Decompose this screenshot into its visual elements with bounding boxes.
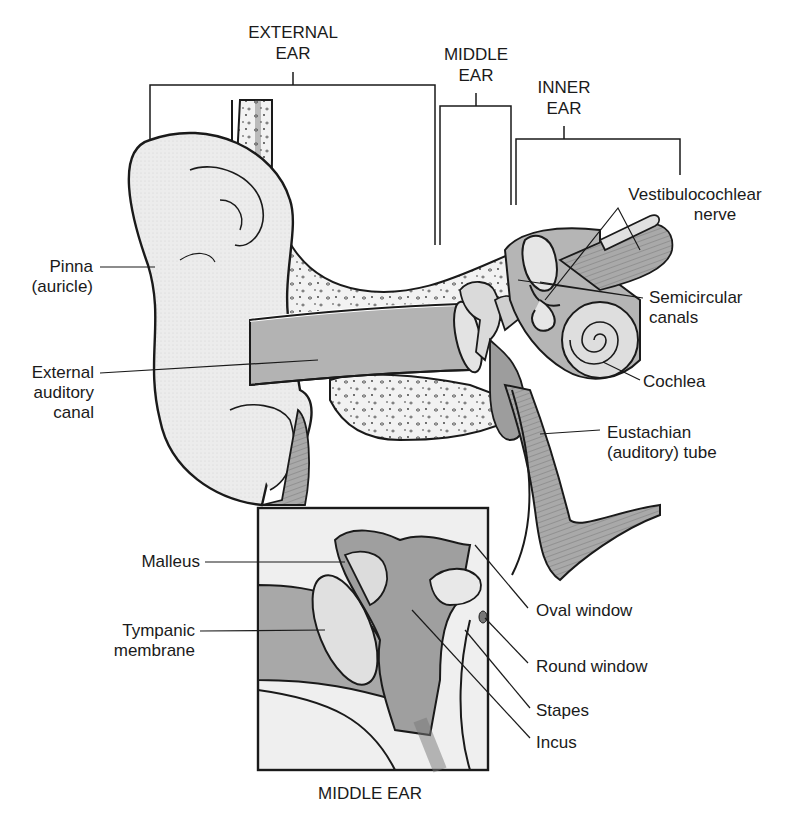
tympanic-label-line1: Tympanic <box>60 621 195 641</box>
eustachian-tube-shape <box>505 385 660 580</box>
canal-label-line2: auditory <box>0 383 94 403</box>
external-auditory-canal-label: External auditory canal <box>0 363 94 423</box>
stapes-label: Stapes <box>536 701 589 721</box>
inner-ear-heading-line2: EAR <box>524 98 604 119</box>
semicircular-label-line2: canals <box>649 308 743 328</box>
external-auditory-canal <box>250 304 470 385</box>
eustachian-label-line1: Eustachian <box>607 423 717 443</box>
tympanic-label-line2: membrane <box>60 641 195 661</box>
tympanic-membrane-label: Tympanic membrane <box>60 621 195 661</box>
pinna-label-line2: (auricle) <box>0 277 93 297</box>
semicircular-label-line1: Semicircular <box>649 288 743 308</box>
malleus-label: Malleus <box>60 552 200 572</box>
cochlea-shape <box>562 302 638 378</box>
middle-ear-heading-line2: EAR <box>431 65 521 86</box>
round-window-label: Round window <box>536 657 648 677</box>
middle-ear-heading-line1: MIDDLE <box>431 44 521 65</box>
pinna-label-line1: Pinna <box>0 257 93 277</box>
incus-label: Incus <box>536 733 577 753</box>
semicircular-canals-label: Semicircular canals <box>649 288 743 328</box>
cochlea-label: Cochlea <box>643 372 705 392</box>
round-window-leader <box>485 618 528 663</box>
eustachian-tube-label: Eustachian (auditory) tube <box>607 423 717 463</box>
canal-label-line3: canal <box>0 403 94 423</box>
oval-window-label: Oval window <box>536 601 632 621</box>
eustachian-label-line2: (auditory) tube <box>607 443 717 463</box>
external-ear-heading-line2: EAR <box>243 43 343 64</box>
nerve-label-line1: Vestibulocochlear <box>610 185 780 205</box>
vestibulocochlear-nerve-label: Vestibulocochlear nerve <box>610 185 780 225</box>
inner-ear-heading: INNER EAR <box>524 77 604 119</box>
external-ear-heading: EXTERNAL EAR <box>243 22 343 64</box>
nerve-label-line2: nerve <box>610 205 780 225</box>
ear-anatomy-illustration <box>0 0 786 822</box>
middle-ear-bracket <box>440 106 511 245</box>
pinna-label: Pinna (auricle) <box>0 257 93 297</box>
canal-label-line1: External <box>0 363 94 383</box>
eustachian-leader <box>540 430 600 434</box>
middle-ear-heading: MIDDLE EAR <box>431 44 521 86</box>
external-ear-heading-line1: EXTERNAL <box>243 22 343 43</box>
inner-ear-heading-line1: INNER <box>524 77 604 98</box>
inset-caption: MIDDLE EAR <box>290 784 450 804</box>
middle-ear-inset <box>258 508 488 770</box>
